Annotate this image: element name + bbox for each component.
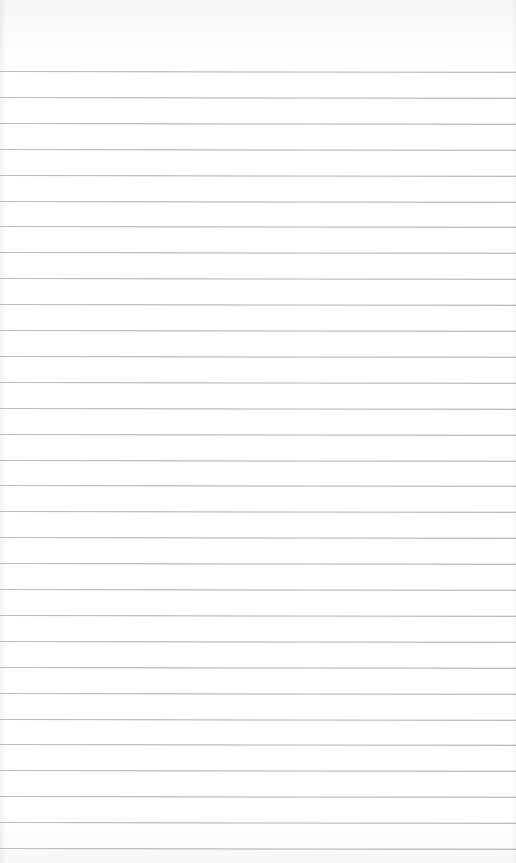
- ruled-line: [0, 693, 516, 695]
- ruled-line: [0, 356, 516, 358]
- ruled-line: [0, 175, 516, 177]
- ruled-line: [0, 434, 516, 436]
- ruled-line: [0, 770, 516, 772]
- ruled-line: [0, 719, 516, 721]
- ruled-line: [0, 330, 516, 332]
- lined-paper-sheet: [0, 0, 516, 863]
- ruled-line: [0, 304, 516, 306]
- ruled-line: [0, 589, 516, 591]
- ruled-line: [0, 667, 516, 669]
- ruled-line: [0, 822, 516, 824]
- ruled-line: [0, 796, 516, 798]
- ruled-line: [0, 641, 516, 643]
- ruled-line: [0, 848, 516, 850]
- ruled-line: [0, 71, 516, 73]
- ruled-line: [0, 149, 516, 151]
- ruled-line: [0, 485, 516, 487]
- ruled-line: [0, 97, 516, 99]
- ruled-line: [0, 537, 516, 539]
- ruled-line: [0, 744, 516, 746]
- ruled-line: [0, 382, 516, 384]
- ruled-line: [0, 226, 516, 228]
- ruled-line: [0, 615, 516, 617]
- ruled-line: [0, 123, 516, 125]
- ruled-line: [0, 563, 516, 565]
- ruled-line: [0, 511, 516, 513]
- ruled-line: [0, 460, 516, 462]
- ruled-line: [0, 252, 516, 254]
- ruled-line: [0, 201, 516, 203]
- ruled-line: [0, 278, 516, 280]
- ruled-line: [0, 408, 516, 410]
